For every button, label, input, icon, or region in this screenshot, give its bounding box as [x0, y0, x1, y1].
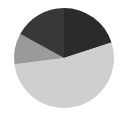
pie-chart: [0, 0, 124, 122]
